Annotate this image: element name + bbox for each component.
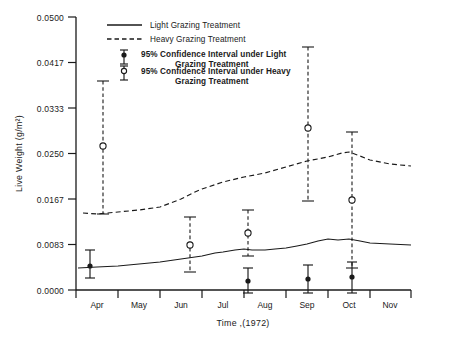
legend-label-heavy-ci-line1: 95% Confidence Interval under Heavy <box>141 67 291 76</box>
legend-label-heavy-ci-line2: Grazing Treatment <box>175 77 249 86</box>
light-ci-sep <box>303 265 313 293</box>
figure-container: 0.0500 0.0417 0.0333 0.0250 0.0167 0.008… <box>0 0 452 346</box>
x-tick-label-jul: Jul <box>218 300 229 310</box>
legend-label-light-grazing: Light Grazing Treatment <box>150 21 241 30</box>
y-axis-title: Live Weight (g/m²) <box>14 115 24 192</box>
x-axis-title: Time ,(1972) <box>216 318 269 328</box>
x-tick-label-sep: Sep <box>299 300 314 310</box>
x-tick-label-apr: Apr <box>90 300 103 310</box>
light-ci-oct <box>347 262 357 293</box>
x-tick-label-aug: Aug <box>257 300 272 310</box>
y-tick-label-2: 0.0167 <box>37 195 64 205</box>
x-tick-label-oct: Oct <box>342 300 356 310</box>
legend-swatch-filled-errorbar <box>120 50 128 64</box>
light-grazing-line <box>78 239 411 268</box>
x-tick-marks <box>76 290 411 298</box>
legend-label-heavy-grazing: Heavy Grazing Treatment <box>150 35 246 44</box>
legend-label-light-ci-line1: 95% Confidence Interval under Light <box>141 50 287 59</box>
x-tick-label-jun: Jun <box>174 300 188 310</box>
x-tick-label-nov: Nov <box>382 300 398 310</box>
light-ci-aug <box>243 268 253 293</box>
light-ci-apr <box>85 250 95 278</box>
y-tick-label-6: 0.0500 <box>37 13 64 23</box>
chart-legend: Light Grazing Treatment Heavy Grazing Tr… <box>107 21 291 86</box>
y-tick-label-4: 0.0333 <box>37 104 64 114</box>
heavy-ci-jun <box>184 217 196 272</box>
y-tick-label-5: 0.0417 <box>37 58 64 68</box>
y-tick-label-0: 0.0000 <box>37 286 64 296</box>
x-tick-label-may: May <box>131 300 148 310</box>
heavy-ci-sep <box>302 47 314 201</box>
y-tick-label-3: 0.0250 <box>37 149 64 159</box>
legend-swatch-open-errorbar <box>120 66 128 80</box>
heavy-ci-apr <box>97 81 109 214</box>
y-tick-label-1: 0.0083 <box>37 240 64 250</box>
heavy-grazing-line <box>83 152 411 214</box>
light-ci-errorbars <box>85 250 357 293</box>
live-weight-chart: 0.0500 0.0417 0.0333 0.0250 0.0167 0.008… <box>0 0 452 346</box>
y-tick-marks <box>68 17 76 290</box>
